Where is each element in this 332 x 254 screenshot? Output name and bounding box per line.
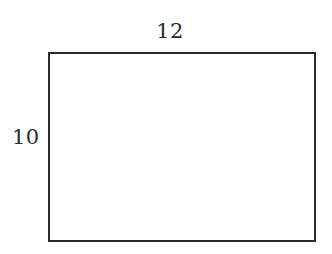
rectangle-shape (48, 52, 316, 242)
dimension-label-height: 10 (12, 127, 46, 148)
figure-canvas: 12 10 (0, 0, 332, 254)
dimension-label-width: 12 (148, 21, 192, 42)
